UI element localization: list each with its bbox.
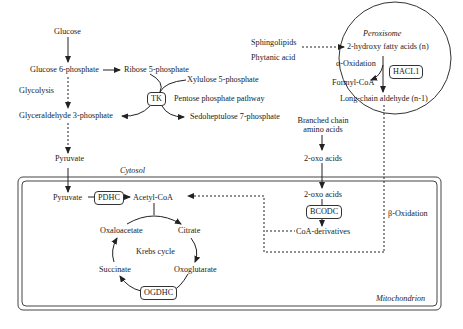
glycolysis-label: Glycolysis <box>19 87 54 95</box>
oxaloacetate-node: Oxaloacetate <box>100 227 143 235</box>
pentose-phosphate-pathway-label: Pentose phosphate pathway <box>174 95 265 103</box>
phytanic-acid-node: Phytanic acid <box>251 54 295 62</box>
sedoheptulose-7-phosphate-node: Sedoheptulose 7-phosphate <box>190 113 280 121</box>
bcaa-line-1: Branched chain <box>296 117 350 125</box>
glucose-node: Glucose <box>54 28 81 36</box>
oxoglutarate-node: Oxoglutarate <box>174 266 217 274</box>
bcaa-line-2: amino acids <box>296 126 350 134</box>
krebs-cycle-label: Krebs cycle <box>136 248 175 256</box>
ogdhc-enzyme: OGDHC <box>140 286 177 300</box>
2-oxo-acids-cytosol-node: 2-oxo acids <box>304 155 342 163</box>
sphingolipids-node: Sphingolipids <box>251 39 297 47</box>
mitochondrion-label: Mitochondrion <box>376 295 425 303</box>
pyruvate-cytosol-node: Pyruvate <box>55 155 84 163</box>
long-chain-aldehyde-node: Long-chain aldehyde (n-1) <box>340 95 428 103</box>
ribose-5-phosphate-node: Ribose 5-phosphate <box>124 66 189 74</box>
coa-derivatives-node: CoA-derivatives <box>296 228 350 236</box>
2-hydroxy-fatty-acids-node: 2-hydroxy fatty acids (n) <box>347 43 429 51</box>
bcodc-enzyme: BCODC <box>306 205 342 219</box>
tk-enzyme: TK <box>147 92 166 106</box>
pyruvate-mito-node: Pyruvate <box>53 194 82 202</box>
2-oxo-acids-mito-node: 2-oxo acids <box>304 191 342 199</box>
pdhc-enzyme: PDHC <box>94 191 124 205</box>
cytosol-label: Cytosol <box>120 167 145 175</box>
branched-chain-amino-acids-node: Branched chain amino acids <box>296 117 350 134</box>
hacl1-enzyme: HACL1 <box>389 65 423 79</box>
peroxisome-label: Peroxisome <box>363 30 401 38</box>
succinate-node: Succinate <box>99 266 131 274</box>
xylulose-5-phosphate-node: Xylulose 5-phosphate <box>187 76 259 84</box>
mitochondrion-inner-membrane <box>22 181 437 306</box>
citrate-node: Citrate <box>178 227 200 235</box>
beta-oxidation-label: β-Oxidation <box>388 210 428 218</box>
formyl-coa-node: Formyl-CoA <box>332 79 374 87</box>
acetyl-coa-node: Acetyl-CoA <box>133 194 173 202</box>
alpha-oxidation-label: α-Oxidation <box>336 60 376 68</box>
glucose-6-phosphate-node: Glucose 6-phosphate <box>30 66 99 74</box>
glyceraldehyde-3-phosphate-node: Glyceraldehyde 3-phosphate <box>19 112 113 120</box>
